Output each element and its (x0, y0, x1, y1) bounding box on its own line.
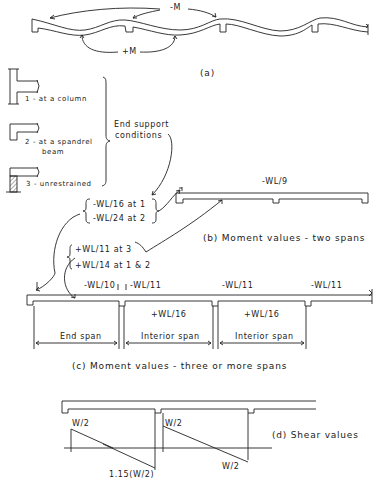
span-label-interior-1: Interior span (141, 333, 200, 341)
caption-d: (d) Shear values (272, 431, 359, 440)
shear-label-end-left: W/2 (72, 420, 90, 428)
end-support-conditions-line1: End support (114, 121, 169, 129)
caption-a: (a) (200, 69, 215, 78)
caption-c: (c) Moment values - three or more spans (72, 362, 287, 371)
support-2-label: 2 - at a spandrel (25, 139, 93, 146)
shear-label-end-right: 1.15(W/2) (109, 471, 154, 479)
moment-interior-span-1: +WL/16 (151, 311, 187, 319)
end-moment-at-2: -WL/24 at 2 (93, 215, 146, 223)
caption-b: (b) Moment values - two spans (203, 234, 365, 243)
end-span-positive-at-1-2: +WL/14 at 1 & 2 (75, 262, 151, 270)
moment-interior-support-3: -WL/11 (311, 282, 342, 290)
shear-label-interior-right: W/2 (222, 463, 240, 471)
support-3-label: 3 - unrestrained (26, 181, 92, 188)
support-2-label-line2: beam (42, 149, 64, 156)
moment-interior-span-2: +WL/16 (244, 311, 280, 319)
end-moment-at-1: -WL/16 at 1 (93, 201, 146, 209)
two-span-support-moment: -WL/9 (262, 178, 288, 186)
moment-interior-support-2: -WL/11 (222, 282, 253, 290)
span-label-end: End span (60, 333, 102, 341)
positive-moment-label: +M (122, 48, 137, 56)
span-label-interior-2: Interior span (235, 333, 294, 341)
moment-end-support: -WL/10 (84, 282, 115, 290)
support-1-label: 1 - at a column (25, 96, 87, 103)
shear-label-interior-left: W/2 (165, 420, 183, 428)
two-span-slab-b (176, 187, 368, 203)
moment-first-interior-support: -WL/11 (130, 282, 161, 290)
end-span-positive-at-3: +WL/11 at 3 (75, 246, 132, 254)
negative-moment-label: -M (170, 4, 181, 12)
end-support-conditions-line2: conditions (115, 132, 162, 140)
deflected-slab-a (32, 8, 368, 52)
